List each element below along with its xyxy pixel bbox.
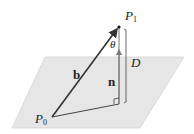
label-p0: P0	[35, 112, 47, 127]
point-plane-distance-diagram: P1 P0 θ D b n	[0, 0, 194, 134]
label-vector-n: n	[108, 75, 115, 88]
point-p1	[117, 25, 120, 28]
label-vector-b: b	[73, 68, 80, 81]
label-distance: D	[131, 56, 140, 69]
label-p1: P1	[125, 9, 137, 24]
diagram-canvas	[0, 0, 194, 134]
label-theta: θ	[110, 39, 115, 50]
